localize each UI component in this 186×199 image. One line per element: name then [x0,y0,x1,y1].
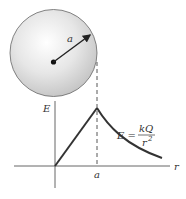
formula-exponent: 2 [147,135,153,143]
r-axis-label: r [174,161,180,172]
sphere-body [10,10,97,97]
a-tick-label: a [94,169,100,180]
charged-sphere: a [10,10,97,97]
formula-lhs: E = [116,130,136,141]
inside-linear-segment [55,108,97,166]
field-formula: E = kQ r 2 [116,123,155,148]
diagram-canvas: a E r a E = kQ r 2 [0,0,186,199]
formula-numerator: kQ [139,123,153,134]
e-axis-label: E [42,103,51,114]
radius-label: a [67,33,73,44]
